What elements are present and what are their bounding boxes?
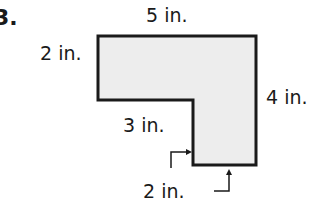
label-inner: 3 in. xyxy=(123,116,165,135)
arrowhead-left xyxy=(186,149,192,155)
label-left: 2 in. xyxy=(40,44,82,63)
label-bottom: 2 in. xyxy=(143,182,185,201)
label-right: 4 in. xyxy=(266,88,308,107)
label-top: 5 in. xyxy=(146,6,188,25)
arrowhead-right xyxy=(226,169,232,175)
l-shape xyxy=(98,36,256,165)
